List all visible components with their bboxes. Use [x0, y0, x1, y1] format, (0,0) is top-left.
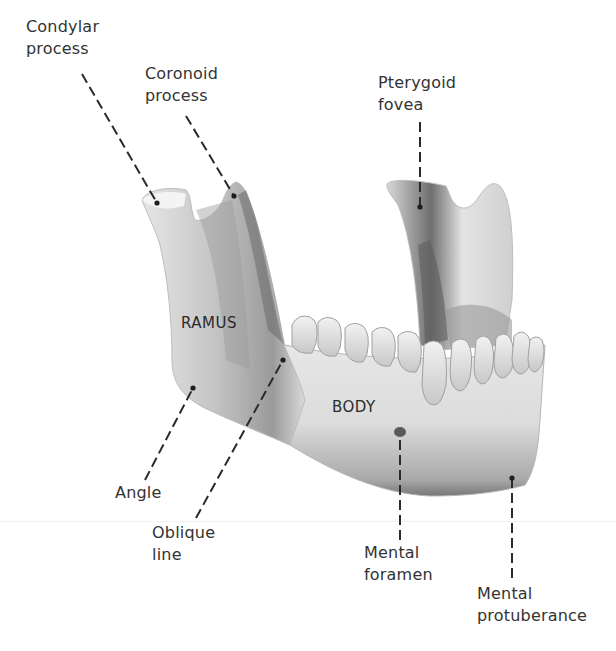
label-mental-foramen: Mental foramen — [364, 542, 433, 586]
region-label-ramus: RAMUS — [181, 314, 237, 332]
label-condylar-process: Condylar process — [26, 16, 99, 60]
mandible-illustration — [0, 0, 616, 651]
label-angle: Angle — [115, 482, 162, 504]
far-ramus — [387, 180, 513, 350]
leader-angle — [145, 388, 193, 480]
label-pterygoid-fovea: Pterygoid fovea — [378, 72, 456, 116]
label-mental-protuberance: Mental protuberance — [477, 583, 587, 627]
mandible-diagram: Condylar process Coronoid process Pteryg… — [0, 0, 616, 651]
mental-foramen-hole — [394, 427, 406, 437]
leader-coronoid — [186, 116, 234, 196]
label-coronoid-process: Coronoid process — [145, 63, 218, 107]
region-label-body: BODY — [332, 398, 376, 416]
label-oblique-line: Oblique line — [152, 522, 215, 566]
